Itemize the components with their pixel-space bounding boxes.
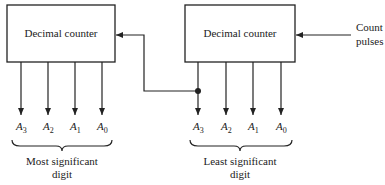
msd-bit-label-a2: A2 (42, 120, 54, 135)
lsd-caption-line1: Least significant (203, 155, 276, 167)
lsd-brace-icon (190, 140, 292, 151)
msd-brace-icon (12, 140, 112, 151)
lsd-bit-label-a2: A2 (220, 120, 232, 135)
junction-dot-icon (195, 88, 201, 94)
counter-diagram: Decimal counter Decimal counter Count pu… (0, 0, 385, 185)
lsd-bit-label-a3: A3 (192, 120, 204, 135)
lsd-bit-label-a0: A0 (275, 120, 287, 135)
lsd-output-arrows (198, 62, 281, 115)
lsd-bit-labels: A3 A2 A1 A0 (192, 120, 287, 135)
lsd-bit-label-a1: A1 (247, 120, 259, 135)
lsd-counter-label: Decimal counter (204, 27, 277, 39)
count-pulses-line1: Count (356, 21, 383, 33)
msd-bit-label-a1: A1 (69, 120, 81, 135)
msd-bit-label-a0: A0 (96, 120, 108, 135)
msd-output-arrows (21, 62, 102, 115)
msd-caption-line1: Most significant (26, 155, 98, 167)
msd-bit-labels: A3 A2 A1 A0 (15, 120, 108, 135)
count-pulses-input: Count pulses (296, 21, 384, 47)
msd-counter: Decimal counter (7, 5, 115, 62)
count-pulses-line2: pulses (356, 35, 384, 47)
lsd-counter: Decimal counter (185, 5, 295, 62)
msd-bit-label-a3: A3 (15, 120, 27, 135)
msd-caption-line2: digit (52, 168, 72, 180)
lsd-caption-line2: digit (230, 168, 250, 180)
msd-counter-label: Decimal counter (25, 27, 98, 39)
